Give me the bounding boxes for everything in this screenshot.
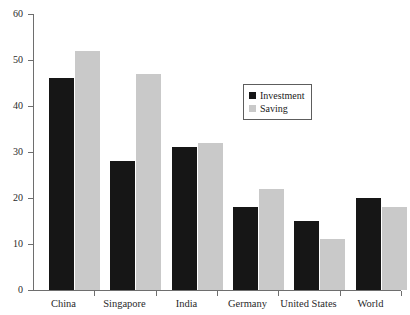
bar-investment-china (49, 78, 74, 290)
bar-saving-world (382, 207, 407, 290)
bar-investment-united-states (294, 221, 319, 290)
legend-swatch-investment (249, 92, 256, 99)
x-tick-mark (94, 291, 95, 296)
y-tick-label: 40 (1, 101, 23, 111)
y-tick-label: 50 (1, 55, 23, 65)
bar-saving-united-states (320, 239, 345, 290)
x-tick-mark (217, 291, 218, 296)
y-tick-mark (28, 290, 33, 291)
y-axis-line (33, 14, 34, 290)
x-tick-label-singapore: Singapore (94, 298, 155, 309)
bar-saving-india (198, 143, 223, 290)
x-tick-label-india: India (156, 298, 217, 309)
bar-investment-world (356, 198, 381, 290)
bar-investment-germany (233, 207, 258, 290)
y-tick-label: 20 (1, 193, 23, 203)
bar-saving-china (75, 51, 100, 290)
y-tick-label: 10 (1, 239, 23, 249)
y-tick-mark (28, 244, 33, 245)
y-tick-label: 0 (1, 285, 23, 295)
x-tick-label-world: World (340, 298, 401, 309)
legend-label-investment: Investment (260, 90, 304, 101)
x-tick-label-united-states: United States (278, 298, 339, 309)
legend-item-investment: Investment (249, 89, 304, 102)
x-tick-label-germany: Germany (217, 298, 278, 309)
bar-investment-india (172, 147, 197, 290)
y-tick-label: 60 (1, 9, 23, 19)
y-tick-mark (28, 152, 33, 153)
x-tick-mark (278, 291, 279, 296)
plot-area: 0102030405060ChinaSingaporeIndiaGermanyU… (0, 0, 410, 315)
y-tick-label: 30 (1, 147, 23, 157)
x-tick-mark (401, 291, 402, 296)
legend-item-saving: Saving (249, 102, 304, 115)
legend-swatch-saving (249, 105, 256, 112)
y-tick-mark (28, 198, 33, 199)
x-tick-label-china: China (33, 298, 94, 309)
x-tick-mark (156, 291, 157, 296)
legend-label-saving: Saving (260, 103, 288, 114)
y-tick-mark (28, 106, 33, 107)
bar-saving-singapore (136, 74, 161, 290)
y-tick-mark (28, 14, 33, 15)
chart-legend: Investment Saving (243, 84, 312, 120)
x-tick-mark (340, 291, 341, 296)
bar-saving-germany (259, 189, 284, 290)
bar-chart: 0102030405060ChinaSingaporeIndiaGermanyU… (0, 0, 410, 315)
bar-investment-singapore (110, 161, 135, 290)
y-tick-mark (28, 60, 33, 61)
